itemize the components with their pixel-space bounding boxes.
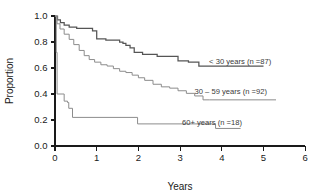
y-axis-ticks: 0.00.20.40.60.81.0 [34, 10, 55, 151]
y-tick-label: 1.0 [34, 10, 47, 21]
x-tick-label: 6 [303, 152, 308, 163]
km-plot-svg: 0123456 0.00.20.40.60.81.0 < 30 years (n… [0, 0, 321, 193]
label-under30: < 30 years (n =87) [209, 57, 272, 66]
series-lines [55, 16, 276, 128]
survival-chart: 0123456 0.00.20.40.60.81.0 < 30 years (n… [0, 0, 321, 193]
y-tick-label: 0.4 [34, 88, 47, 99]
y-tick-label: 0.6 [34, 62, 47, 73]
x-axis-ticks: 0123456 [52, 146, 307, 163]
x-tick-label: 5 [261, 152, 266, 163]
survival-curve-3 [55, 16, 241, 128]
x-tick-label: 0 [52, 152, 57, 163]
x-tick-label: 1 [94, 152, 99, 163]
y-tick-label: 0.0 [34, 140, 47, 151]
label-60plus: 60+ years (n =18) [182, 118, 242, 127]
series-annotations: < 30 years (n =87)30 – 59 years (n =92)6… [182, 57, 272, 127]
y-tick-label: 0.8 [34, 36, 47, 47]
y-tick-label: 0.2 [34, 114, 47, 125]
x-tick-label: 4 [219, 152, 224, 163]
y-axis-title: Proportion [4, 58, 15, 104]
x-tick-label: 2 [136, 152, 141, 163]
x-axis-title: Years [167, 181, 192, 192]
label-30to59: 30 – 59 years (n =92) [195, 87, 268, 96]
x-tick-label: 3 [177, 152, 182, 163]
